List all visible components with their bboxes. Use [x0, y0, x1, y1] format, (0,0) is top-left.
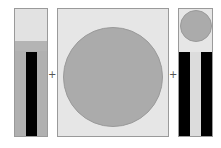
small-circle	[180, 10, 212, 42]
left-panel-top-region	[15, 9, 47, 41]
left-panel-gray-band	[15, 41, 47, 51]
plus-operator-1: +	[48, 70, 56, 80]
left-panel-black-bar	[26, 52, 37, 137]
left-panel	[14, 8, 48, 137]
large-circle	[63, 27, 163, 127]
right-panel-black-bar-right	[201, 52, 212, 137]
right-panel	[178, 8, 213, 137]
right-panel-black-bar-left	[179, 52, 190, 137]
middle-panel	[57, 8, 169, 137]
plus-operator-2: +	[169, 70, 177, 80]
